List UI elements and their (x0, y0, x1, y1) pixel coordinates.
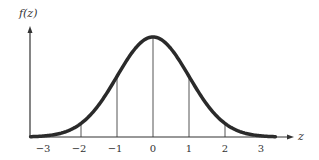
x-tick-label: −1 (108, 143, 123, 154)
x-tick-label: 3 (258, 143, 264, 154)
x-tick-label: 1 (186, 143, 192, 154)
x-tick-label: 2 (222, 143, 228, 154)
x-tick-label: −3 (36, 143, 51, 154)
x-tick-labels: −3−2−10123 (36, 143, 265, 154)
vertical-reference-lines (81, 37, 225, 137)
x-tick-label: 0 (150, 143, 156, 154)
y-axis-label: f(z) (18, 7, 37, 20)
x-axis-label: z (297, 130, 304, 143)
x-axis-arrow-icon (287, 135, 294, 140)
normal-curve-chart: −3−2−10123 f(z) z (0, 0, 319, 160)
y-axis-arrow-icon (28, 26, 33, 33)
x-tick-label: −2 (72, 143, 87, 154)
